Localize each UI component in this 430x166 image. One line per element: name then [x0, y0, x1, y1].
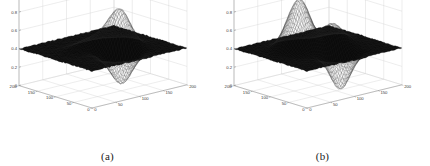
caption-b: (b)	[215, 150, 430, 162]
axes-front-edges	[234, 85, 402, 108]
x-tick-label: 0	[309, 107, 312, 112]
axes-front-edges	[19, 85, 187, 108]
y-tick-label: 150	[243, 90, 251, 95]
figure-container: 00.20.40.60.81050100150200050100150200 (…	[0, 0, 430, 166]
y-tick-label: 50	[67, 101, 72, 106]
z-tick-label: 0.6	[226, 28, 232, 33]
subfigure-panel-a: 00.20.40.60.81050100150200050100150200 (…	[0, 0, 215, 166]
surface-plot-a: 00.20.40.60.81050100150200050100150200	[0, 0, 215, 140]
x-tick-label: 100	[142, 96, 150, 101]
x-tick-label: 50	[118, 102, 123, 107]
x-tick-label: 100	[357, 96, 365, 101]
caption-a: (a)	[0, 150, 215, 162]
z-tick-label: 0.2	[11, 65, 17, 70]
y-tick-label: 150	[28, 90, 36, 95]
z-tick-label: 0.4	[226, 46, 232, 51]
x-tick-label: 200	[189, 84, 197, 89]
x-tick-label: 50	[333, 102, 338, 107]
surface-plot-b: 00.20.40.60.81050100150200050100150200	[215, 0, 430, 140]
y-tick-label: 200	[225, 84, 233, 89]
x-tick-label: 150	[380, 90, 388, 95]
surface-plot-a-svg: 00.20.40.60.81050100150200050100150200	[0, 0, 215, 140]
y-tick-label: 100	[46, 95, 54, 100]
y-tick-label: 200	[10, 84, 18, 89]
y-tick-label: 100	[261, 95, 269, 100]
surface-mesh	[234, 0, 402, 89]
x-tick-label: 0	[94, 107, 97, 112]
surface-body	[234, 0, 402, 89]
z-tick-label: 0.2	[226, 65, 232, 70]
z-tick-label: 0.8	[226, 10, 232, 15]
z-tick-label: 0.8	[11, 10, 17, 15]
surface-mesh	[19, 9, 187, 84]
z-tick-label: 0.6	[11, 28, 17, 33]
subfigure-panel-b: 00.20.40.60.81050100150200050100150200 (…	[215, 0, 430, 166]
surface-plot-b-svg: 00.20.40.60.81050100150200050100150200	[215, 0, 430, 140]
x-tick-label: 150	[165, 90, 173, 95]
x-tick-label: 200	[404, 84, 412, 89]
z-tick-label: 0.4	[11, 46, 17, 51]
y-tick-label: 50	[282, 101, 287, 106]
